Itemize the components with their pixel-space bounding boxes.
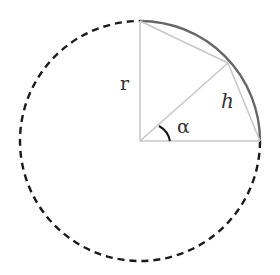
angle-arc-mark xyxy=(159,126,170,141)
chord-label: h xyxy=(221,89,234,113)
radius-label: r xyxy=(120,72,130,94)
angle-label: α xyxy=(177,115,190,137)
circle-diagram: r h α xyxy=(0,0,280,275)
quarter-arc-mask xyxy=(140,21,260,141)
